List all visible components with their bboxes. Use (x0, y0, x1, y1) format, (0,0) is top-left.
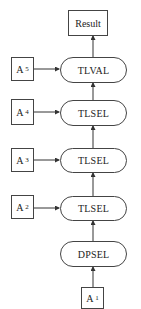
input-a3: A3 (11, 148, 34, 172)
node-label: TLSEL (78, 203, 109, 214)
input-subscript: 1 (95, 294, 99, 302)
result-box: Result (68, 10, 108, 36)
input-a2: A2 (11, 195, 34, 219)
node-label: TLVAL (78, 65, 110, 76)
input-a4: A4 (11, 99, 34, 125)
node-label: DPSEL (78, 249, 110, 260)
node-tlval: TLVAL (60, 57, 127, 83)
node-dpsel: DPSEL (60, 241, 127, 267)
input-label: A (16, 155, 23, 166)
input-label: A (86, 293, 93, 304)
node-label: TLSEL (78, 155, 109, 166)
input-label: A (16, 107, 23, 118)
input-subscript: 4 (25, 108, 29, 116)
input-subscript: 2 (25, 203, 29, 211)
input-a5: A5 (11, 57, 34, 81)
node-tlsel-a3: TLSEL (60, 148, 127, 173)
result-label: Result (75, 18, 101, 29)
input-subscript: 3 (25, 156, 29, 164)
node-tlsel-a2: TLSEL (60, 196, 127, 221)
input-subscript: 5 (25, 65, 29, 73)
node-tlsel-a4: TLSEL (60, 100, 127, 126)
input-a1: A1 (81, 287, 104, 309)
input-label: A (16, 202, 23, 213)
node-label: TLSEL (78, 108, 109, 119)
input-label: A (16, 64, 23, 75)
